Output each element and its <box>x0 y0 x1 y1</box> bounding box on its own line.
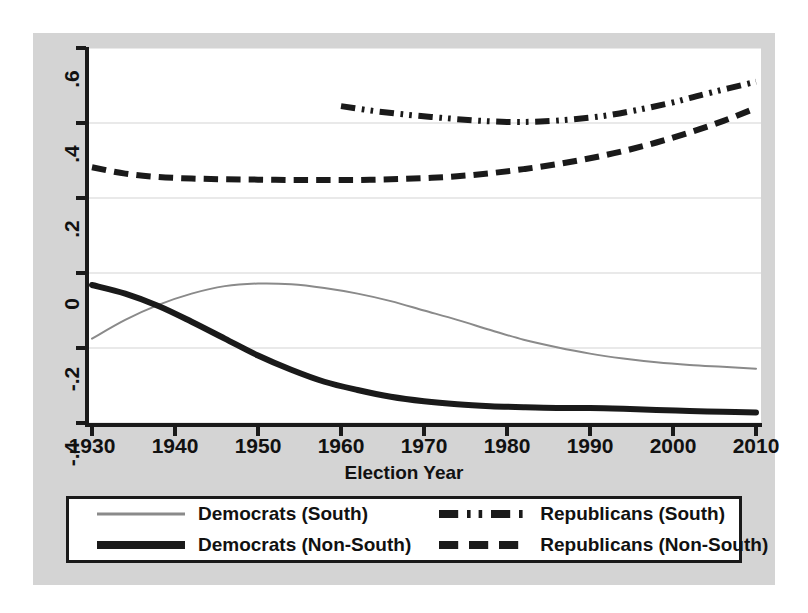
legend-item[interactable]: Democrats (South) <box>69 503 411 525</box>
y-axis-line <box>85 47 89 426</box>
plot-canvas <box>88 48 761 423</box>
series-line-3 <box>341 82 756 122</box>
x-tick-label: 2010 <box>711 434 801 458</box>
x-tick-label: 1970 <box>379 434 469 458</box>
y-tick-label: .6 <box>60 49 84 109</box>
x-tick-label: 1950 <box>213 434 303 458</box>
legend: Democrats (South)Republicans (South)Demo… <box>66 496 742 563</box>
legend-line-sample <box>437 538 529 552</box>
y-tick-label: -.2 <box>60 349 84 409</box>
chart-figure: -.4-.20.2.4.6 19301940195019601970198019… <box>0 0 808 613</box>
y-tick-label: .4 <box>60 124 84 184</box>
legend-label: Democrats (South) <box>198 503 368 525</box>
x-axis-title: Election Year <box>0 462 808 484</box>
legend-label: Democrats (Non-South) <box>198 534 411 556</box>
legend-line-sample <box>95 538 187 552</box>
legend-label: Republicans (South) <box>540 503 725 525</box>
series-line-1 <box>92 283 756 368</box>
x-tick-label: 1960 <box>296 434 386 458</box>
legend-item[interactable]: Democrats (Non-South) <box>69 534 411 556</box>
legend-label: Republicans (Non-South) <box>540 534 768 556</box>
legend-item[interactable]: Republicans (South) <box>411 503 768 525</box>
series-line-2 <box>92 285 756 413</box>
legend-item[interactable]: Republicans (Non-South) <box>411 534 768 556</box>
legend-line-sample <box>437 507 529 521</box>
x-tick-label: 1940 <box>130 434 220 458</box>
y-tick-label: .2 <box>60 199 84 259</box>
legend-line-sample <box>95 507 187 521</box>
x-tick-label: 1980 <box>462 434 552 458</box>
x-tick-label: 1990 <box>545 434 635 458</box>
x-tick-label: 2000 <box>628 434 718 458</box>
y-tick-label: 0 <box>60 274 84 334</box>
x-tick-label: 1930 <box>47 434 137 458</box>
plot-area <box>88 48 761 423</box>
